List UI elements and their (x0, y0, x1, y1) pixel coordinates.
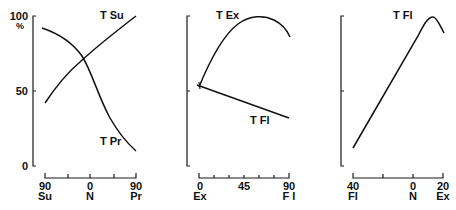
x-tick-left-sub: Ex (193, 190, 207, 202)
y-tick-50: 50 (16, 85, 28, 97)
curve-t-fl (197, 85, 289, 118)
y-axis (33, 16, 36, 166)
label-t-fl: T Fl (393, 9, 413, 21)
figure: 100 % 50 0 90 Su 0 N 90 Pr T Su T Pr 0 E… (0, 0, 456, 210)
panel-2: 0 Ex 45 90 F l T Ex T Fl (187, 9, 295, 202)
y-axis (341, 16, 344, 166)
y-tick-0: 0 (22, 160, 28, 172)
panel-1: 100 % 50 0 90 Su 0 N 90 Pr T Su T Pr (10, 9, 143, 202)
x-tick-mid-sub: N (86, 190, 94, 202)
x-tick-right-sub: F l (283, 190, 296, 202)
label-t-pr: T Pr (100, 135, 122, 147)
x-axis (199, 173, 289, 178)
panel-3: 40 Fl 0 N 20 Ex T Fl (341, 9, 451, 202)
curve-t-fl (353, 17, 444, 148)
curve-t-su (45, 16, 136, 103)
curve-t-ex (199, 17, 290, 87)
x-tick-right-sub: Ex (436, 190, 450, 202)
x-tick-mid: 45 (238, 180, 250, 192)
x-axis (45, 173, 136, 178)
curve-t-pr (42, 28, 136, 151)
label-t-ex: T Ex (216, 9, 240, 21)
y-axis (187, 16, 190, 166)
label-t-fl: T Fl (250, 114, 270, 126)
label-t-su: T Su (100, 9, 124, 21)
y-unit: % (16, 21, 24, 31)
x-axis (353, 173, 443, 178)
x-tick-right-sub: Pr (130, 190, 142, 202)
x-tick-left-sub: Su (38, 190, 52, 202)
x-tick-mid-sub: N (409, 190, 417, 202)
x-tick-left-sub: Fl (348, 190, 358, 202)
